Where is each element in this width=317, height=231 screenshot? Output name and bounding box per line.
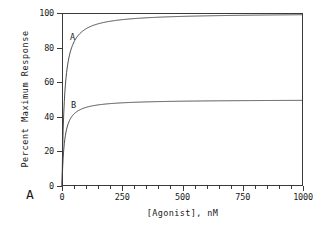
- y-tick-mark: [57, 117, 62, 118]
- x-tick-mark-minor: [279, 186, 280, 189]
- y-tick-label: 80: [44, 44, 54, 53]
- x-tick-label: 250: [115, 193, 130, 202]
- x-tick-label: 0: [60, 193, 65, 202]
- x-tick-mark-minor: [195, 186, 196, 189]
- x-tick-mark-major: [122, 186, 123, 191]
- x-tick-label: 1000: [293, 193, 313, 202]
- x-tick-mark-minor: [134, 186, 135, 189]
- panel-label: A: [26, 188, 34, 202]
- y-tick-mark: [57, 151, 62, 152]
- y-tick-mark: [57, 13, 62, 14]
- y-tick-label: 20: [44, 147, 54, 156]
- x-tick-mark-major: [62, 186, 63, 191]
- x-tick-mark-major: [303, 186, 304, 191]
- x-tick-mark-minor: [267, 186, 268, 189]
- x-tick-label: 500: [175, 193, 190, 202]
- figure-panel: 020406080100 02505007501000 Percent Maxi…: [0, 0, 317, 231]
- curve-label-b: B: [71, 101, 76, 110]
- y-tick-mark: [57, 48, 62, 49]
- x-tick-mark-major: [183, 186, 184, 191]
- y-tick-label: 100: [39, 9, 54, 18]
- x-tick-mark-minor: [291, 186, 292, 189]
- x-tick-mark-minor: [110, 186, 111, 189]
- x-axis-title: [Agonist], nM: [62, 208, 303, 218]
- y-tick-label: 0: [49, 182, 54, 191]
- x-tick-mark-minor: [207, 186, 208, 189]
- y-tick-mark: [57, 82, 62, 83]
- x-tick-mark-minor: [219, 186, 220, 189]
- x-tick-label: 750: [235, 193, 250, 202]
- curve-plot-area: [62, 13, 303, 186]
- x-tick-mark-minor: [74, 186, 75, 189]
- y-tick-label: 60: [44, 78, 54, 87]
- y-tick-label: 40: [44, 113, 54, 122]
- x-tick-mark-minor: [170, 186, 171, 189]
- x-tick-mark-major: [243, 186, 244, 191]
- y-axis-title: Percent Maximum Response: [20, 11, 30, 187]
- x-tick-mark-minor: [146, 186, 147, 189]
- x-tick-mark-minor: [98, 186, 99, 189]
- x-tick-mark-minor: [86, 186, 87, 189]
- x-tick-mark-minor: [158, 186, 159, 189]
- curve-series-b: [62, 100, 303, 186]
- x-tick-mark-minor: [231, 186, 232, 189]
- curve-label-a: A: [70, 33, 75, 42]
- x-tick-mark-minor: [255, 186, 256, 189]
